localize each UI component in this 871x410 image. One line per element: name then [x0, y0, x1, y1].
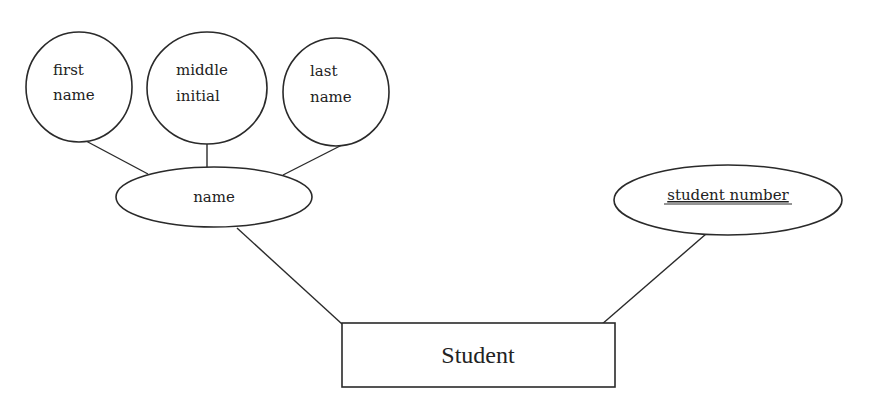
- entity-student[interactable]: Student: [342, 323, 615, 387]
- attribute-first-name[interactable]: first name: [26, 32, 132, 142]
- attribute-student-number-label: student number: [667, 186, 789, 204]
- attribute-middle-initial-line2: initial: [176, 87, 220, 105]
- entity-student-label: Student: [441, 342, 515, 368]
- attribute-last-name-line2: name: [310, 88, 352, 106]
- connector-first-name-to-name: [86, 141, 148, 174]
- attribute-name[interactable]: name: [116, 167, 312, 227]
- attribute-middle-initial[interactable]: middle initial: [147, 32, 267, 144]
- connector-name-to-student: [237, 228, 342, 324]
- attribute-last-name-line1: last: [310, 62, 337, 80]
- connector-last-name-to-name: [283, 145, 342, 175]
- attribute-first-name-line1: first: [53, 61, 84, 79]
- er-diagram-canvas: first name middle initial last name name…: [0, 0, 871, 410]
- attribute-last-name[interactable]: last name: [283, 38, 389, 146]
- attribute-first-name-line2: name: [53, 86, 95, 104]
- connector-student-number-to-student: [601, 234, 706, 325]
- attribute-middle-initial-line1: middle: [176, 61, 228, 79]
- attribute-student-number[interactable]: student number: [614, 165, 842, 235]
- attribute-name-label: name: [193, 188, 235, 206]
